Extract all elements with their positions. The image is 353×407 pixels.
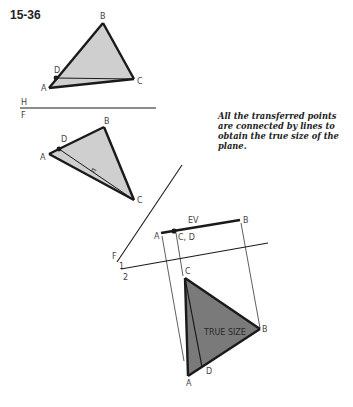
ev-label: EV xyxy=(188,216,199,225)
point-d-marker xyxy=(54,76,59,81)
label-a: A xyxy=(41,84,47,93)
label-c: C xyxy=(137,196,143,205)
label-d: D xyxy=(54,66,60,75)
point-d-marker xyxy=(57,147,62,152)
label-b: B xyxy=(104,117,110,126)
label-a: A xyxy=(154,232,160,241)
fold-label-2: 2 xyxy=(123,273,128,282)
label-b: B xyxy=(100,12,106,21)
point-cd-marker xyxy=(171,228,176,233)
fold-label-f: F xyxy=(112,252,117,261)
fold-line-hf: H F xyxy=(20,98,156,120)
true-size-label: TRUE SIZE xyxy=(203,328,246,337)
true-size-view: TRUE SIZE C B A D xyxy=(185,267,268,388)
descriptive-geometry-diagram: B A C D H F B A C D π F 1 EV A B C, D xyxy=(0,0,353,407)
top-view: B A C D xyxy=(41,12,143,93)
label-d: D xyxy=(206,367,212,376)
label-c: C xyxy=(185,267,191,276)
fold-label-h: H xyxy=(21,98,27,107)
label-cd: C, D xyxy=(178,233,195,242)
label-a: A xyxy=(186,379,192,388)
fold-label-f: F xyxy=(21,111,26,120)
edge-view: EV A B C, D xyxy=(154,216,249,242)
label-b: B xyxy=(243,216,249,225)
label-d: D xyxy=(61,135,67,144)
label-a: A xyxy=(40,153,46,162)
label-b: B xyxy=(262,325,268,334)
front-view: B A C D π xyxy=(40,117,143,205)
label-c: C xyxy=(137,77,143,86)
fold-label-1: 1 xyxy=(119,262,124,271)
